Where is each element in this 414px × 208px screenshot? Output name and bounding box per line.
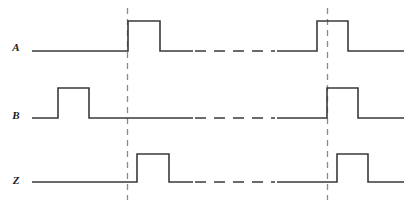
waveform-z-after-break bbox=[277, 154, 404, 182]
marker-group bbox=[128, 8, 328, 200]
timing-diagram-canvas: A B Z bbox=[0, 0, 414, 208]
signal-row-b: B bbox=[11, 88, 404, 121]
signal-label-a: A bbox=[11, 41, 19, 53]
waveform-b-after-break bbox=[277, 88, 404, 118]
waveform-a-before-break bbox=[32, 21, 193, 51]
signal-label-z: Z bbox=[12, 174, 20, 186]
timing-diagram-svg: A B Z bbox=[0, 0, 414, 208]
signal-row-a: A bbox=[11, 21, 404, 53]
waveform-a-after-break bbox=[277, 21, 404, 51]
signal-row-z: Z bbox=[12, 154, 404, 186]
waveform-b-before-break bbox=[32, 88, 193, 118]
waveform-z-before-break bbox=[32, 154, 193, 182]
signal-label-b: B bbox=[11, 109, 19, 121]
